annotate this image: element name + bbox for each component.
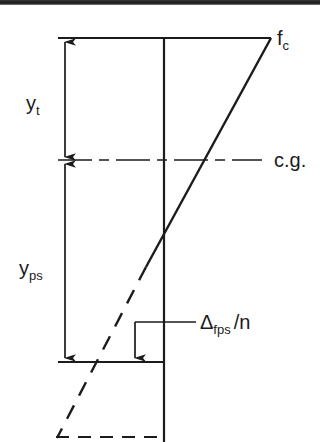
stress-distribution-svg: fc yt yps c.g. Δfps/n bbox=[0, 0, 320, 442]
label-delta-fps-sub: fps bbox=[213, 322, 231, 337]
label-yt: yt bbox=[26, 92, 40, 118]
label-yps-sub: ps bbox=[29, 268, 43, 283]
label-delta-fps-base: Δ bbox=[200, 311, 213, 333]
label-fc-sub: c bbox=[283, 38, 290, 53]
label-fc: fc bbox=[277, 27, 290, 53]
label-delta-fps-suffix: /n bbox=[234, 311, 251, 333]
label-yt-sub: t bbox=[36, 103, 40, 118]
label-yps-base: y bbox=[19, 257, 29, 279]
stress-diagonal-dashed bbox=[57, 267, 146, 438]
label-yt-base: y bbox=[26, 92, 36, 114]
label-cg: c.g. bbox=[274, 149, 306, 171]
label-delta-fps: Δfps/n bbox=[200, 311, 250, 337]
scan-artifact-band bbox=[0, 0, 320, 5]
label-yps: yps bbox=[19, 257, 43, 283]
delta-fps-leader-group bbox=[135, 322, 196, 358]
stress-diagram-figure: fc yt yps c.g. Δfps/n bbox=[0, 0, 320, 442]
